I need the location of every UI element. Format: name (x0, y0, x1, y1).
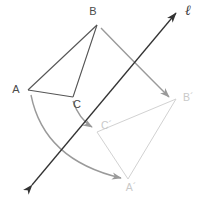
mirror-line-label: ℓ (185, 3, 191, 18)
vertex-label-a-prime: A´ (126, 181, 137, 193)
vertex-label-b-prime: B´ (183, 91, 194, 103)
reflection-diagram: A B C A´ B´ C´ ℓ (0, 0, 206, 204)
mirror-line (32, 13, 176, 185)
mirror-line-group (32, 13, 176, 185)
edge-a-prime-b-prime (128, 99, 176, 179)
vertex-label-b: B (89, 5, 96, 17)
vertex-label-c: C (73, 98, 81, 110)
vertex-label-c-prime: C´ (101, 119, 112, 131)
image-triangle-group (97, 99, 176, 179)
reflection-figure-svg: A B C A´ B´ C´ ℓ (0, 0, 206, 204)
edge-ca (28, 90, 73, 97)
vertex-label-a: A (12, 83, 20, 95)
preimage-triangle-group (28, 25, 97, 97)
